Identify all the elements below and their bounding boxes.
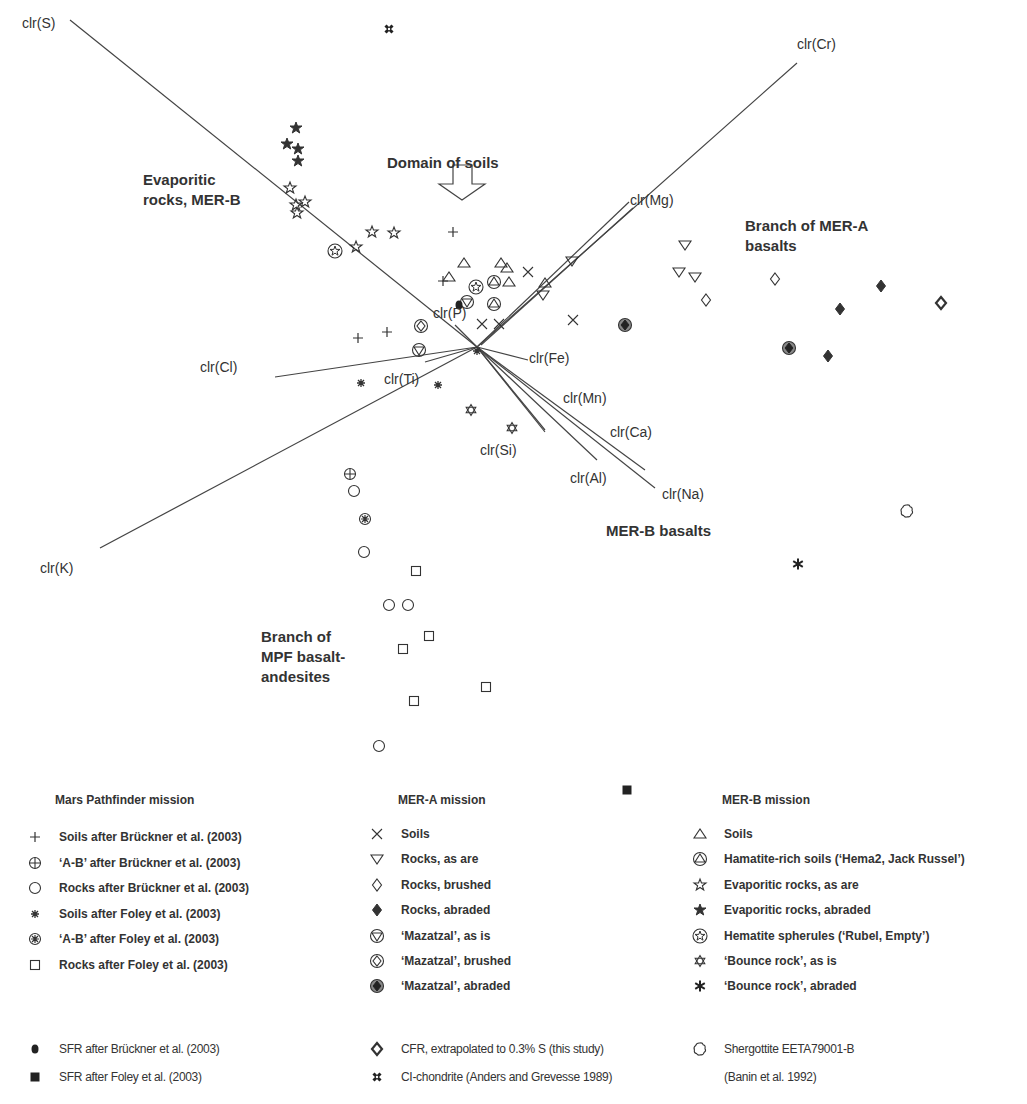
legend-item: ‘Mazatzal’, brushed: [369, 952, 511, 970]
legend-item-label: (Banin et al. 1992): [724, 1070, 816, 1084]
legend-item-label: Rocks, brushed: [401, 878, 491, 892]
legend-item: Hamatite-rich soils (‘Hema2, Jack Russel…: [692, 850, 965, 868]
axis-vector-clrcl: [275, 347, 477, 377]
axis-label-clrs: clr(S): [22, 15, 55, 31]
legend-item: Hematite spherules (‘Rubel, Empty’): [692, 927, 929, 945]
axis-label-clrfe: clr(Fe): [529, 350, 569, 366]
marker-star-open-icon: [388, 227, 400, 238]
marker-asterisk-bold-icon: [793, 559, 803, 570]
square-icon: [27, 957, 43, 973]
legend-item: ‘Mazatzal’, as is: [369, 927, 490, 945]
axis-label-clral: clr(Al): [570, 470, 607, 486]
marker-square-icon: [425, 632, 434, 641]
legend-item-label: ‘Mazatzal’, brushed: [401, 954, 511, 968]
axis-vector-clrk: [100, 347, 477, 548]
marker-circle-icon: [403, 600, 414, 611]
triangle-down-icon: [369, 851, 385, 867]
legend-item: Soils after Foley et al. (2003): [27, 905, 220, 923]
marker-diamond-filled-icon: [836, 303, 845, 315]
legend-title-mpf: Mars Pathfinder mission: [55, 793, 194, 807]
marker-hexagram-icon: [466, 405, 476, 416]
marker-circle-triangle-icon: [488, 298, 501, 311]
legend-item-label: Hematite spherules (‘Rubel, Empty’): [724, 929, 929, 943]
legend-item-label: Soils after Foley et al. (2003): [59, 907, 220, 921]
marker-square-icon: [399, 645, 408, 654]
axis-label-clrcl: clr(Cl): [200, 359, 237, 375]
legend-item: Soils after Brückner et al. (2003): [27, 828, 242, 846]
marker-asterisk-icon: [434, 381, 442, 389]
circle-star-icon: [692, 928, 708, 944]
legend-item-label: CI-chondrite (Anders and Grevesse 1989): [401, 1070, 612, 1084]
legend-item: ‘Mazatzal’, abraded: [369, 977, 510, 995]
circle-asterisk-icon: [27, 931, 43, 947]
star-filled-icon: [692, 902, 708, 918]
marker-circle-icon: [374, 741, 385, 752]
circle-triangle-icon: [692, 851, 708, 867]
marker-circle-icon: [359, 547, 370, 558]
legend-item: SFR after Foley et al. (2003): [27, 1068, 202, 1086]
marker-star-open-icon: [284, 182, 296, 193]
asterisk-icon: [27, 906, 43, 922]
legend-item-label: ‘Mazatzal’, abraded: [401, 979, 510, 993]
marker-star-filled-icon: [292, 155, 304, 166]
legend-item-label: ‘A-B’ after Brückner et al. (2003): [59, 856, 240, 870]
marker-x-icon: [477, 319, 487, 329]
legend-item-label: Soils after Brückner et al. (2003): [59, 830, 242, 844]
chondrite-cross-icon: [369, 1069, 385, 1085]
dot-filled-icon: [27, 1041, 43, 1057]
axis-label-clrsi: clr(Si): [480, 442, 517, 458]
legend-item-label: CFR, extrapolated to 0.3% S (this study): [401, 1042, 604, 1056]
legend-title-merb: MER-B mission: [722, 793, 810, 807]
axis-vector-mg-parallel: [481, 208, 633, 345]
marker-triangle-icon: [503, 277, 515, 286]
blank-icon: [692, 1069, 708, 1085]
marker-square-icon: [412, 567, 421, 576]
marker-square-icon: [482, 683, 491, 692]
marker-star-filled-icon: [290, 122, 302, 133]
axis-label-clrp: clr(P): [433, 305, 466, 321]
asterisk-bold-icon: [692, 978, 708, 994]
legend-item: (Banin et al. 1992): [692, 1068, 816, 1086]
marker-plus-icon: [353, 333, 363, 343]
legend-item-label: ‘A-B’ after Foley et al. (2003): [59, 932, 219, 946]
marker-triangle-down-icon: [679, 241, 691, 250]
annotation-mpf-branch-line3: andesites: [261, 668, 330, 685]
marker-circle-diamond-filled-icon: [619, 319, 632, 332]
legend-item-label: Soils: [401, 827, 430, 841]
annotation-mera-branch-line1: Branch of MER-A: [745, 217, 869, 234]
marker-chondrite-cross-icon: [386, 26, 393, 33]
axis-vector-clrs: [70, 20, 477, 347]
marker-square-icon: [410, 697, 419, 706]
axis-label-clrca: clr(Ca): [610, 424, 652, 440]
marker-circle-diamond-icon: [415, 320, 428, 333]
marker-hexagram-icon: [507, 423, 517, 434]
legend-item-label: Evaporitic rocks, as are: [724, 878, 859, 892]
legend-item: ‘Bounce rock’, as is: [692, 952, 837, 970]
legend-item: SFR after Brückner et al. (2003): [27, 1040, 219, 1058]
diamond-icon: [369, 877, 385, 893]
axis-label-clrcr: clr(Cr): [797, 36, 836, 52]
legend-item-label: Rocks, abraded: [401, 903, 490, 917]
annotation-evaporitic-line1: Evaporitic: [143, 171, 216, 188]
legend-item-label: Rocks, as are: [401, 852, 478, 866]
axis-vector-clrti: [425, 347, 477, 362]
square-filled-icon: [27, 1069, 43, 1085]
hexagram-icon: [692, 953, 708, 969]
legend-item-label: ‘Bounce rock’, abraded: [724, 979, 857, 993]
marker-plus-icon: [448, 227, 458, 237]
diamond-filled-icon: [369, 902, 385, 918]
marker-star-open-icon: [366, 226, 378, 237]
legend-item: CFR, extrapolated to 0.3% S (this study): [369, 1040, 604, 1058]
marker-square-filled-icon: [623, 786, 632, 795]
axis-vector-clrna: [477, 347, 655, 488]
marker-circle-star-icon: [469, 280, 483, 294]
legend-item: Rocks, as are: [369, 850, 478, 868]
marker-diamond-filled-icon: [877, 280, 886, 292]
legend-item: ‘A-B’ after Foley et al. (2003): [27, 930, 219, 948]
annotation-evaporitic-line2: rocks, MER-B: [143, 191, 241, 208]
axis-label-clrna: clr(Na): [662, 486, 704, 502]
legend-item: Soils: [369, 825, 430, 843]
axis-label-clrmn: clr(Mn): [563, 390, 607, 406]
marker-circle-icon: [384, 600, 395, 611]
legend-item-label: SFR after Foley et al. (2003): [59, 1070, 202, 1084]
